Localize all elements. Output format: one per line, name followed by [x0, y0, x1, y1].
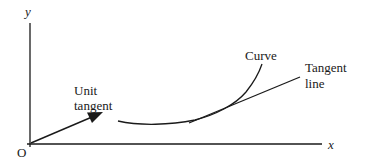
tangent-line-label-line1: Tangent — [305, 61, 347, 75]
tangent-diagram: y x O Unit tangent Curve Tangent line — [0, 0, 368, 163]
x-axis-label: x — [328, 138, 334, 152]
unit-tangent-label-line1: Unit — [74, 84, 97, 98]
curve-label: Curve — [245, 49, 277, 63]
origin-label: O — [17, 146, 26, 160]
tangent-line-label-line2: line — [305, 77, 325, 91]
tangent-line — [189, 77, 300, 123]
y-axis-label: y — [25, 5, 31, 19]
curve — [118, 64, 262, 124]
unit-tangent-arrow-icon — [31, 112, 103, 143]
unit-tangent-label-line2: tangent — [74, 99, 112, 113]
